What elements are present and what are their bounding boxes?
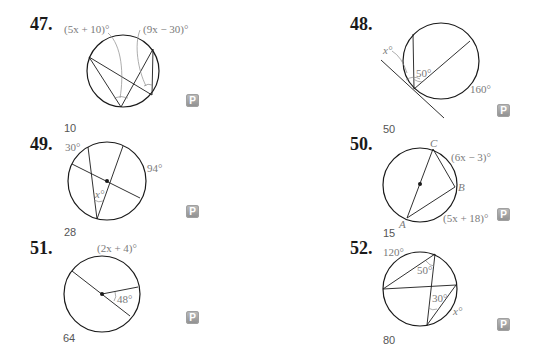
arc-120-label: 120° bbox=[383, 246, 404, 258]
angle-30-label: 30° bbox=[432, 292, 447, 304]
practice-badge-52[interactable]: P bbox=[497, 318, 510, 331]
problem-52-figure: 120° 50° 30° x° bbox=[0, 0, 538, 362]
angle-50-label: 50° bbox=[417, 264, 432, 276]
answer-52: 80 bbox=[383, 334, 395, 346]
angle-arc bbox=[428, 308, 437, 310]
arc-x-label: x° bbox=[452, 305, 463, 317]
chord bbox=[383, 285, 456, 289]
